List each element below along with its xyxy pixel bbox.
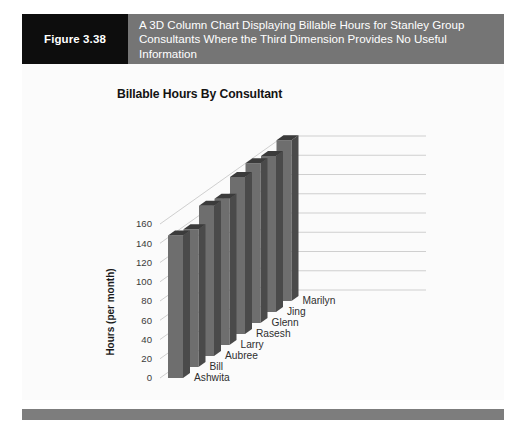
figure-caption-block: A 3D Column Chart Displaying Billable Ho… bbox=[128, 14, 504, 64]
category-label: Marilyn bbox=[303, 295, 336, 306]
y-axis-title: Hours (per month) bbox=[105, 268, 116, 355]
y-axis-tick-label: 160 bbox=[136, 218, 152, 229]
footer-rule bbox=[22, 409, 504, 420]
bar-column bbox=[168, 231, 190, 378]
y-axis-tick-label: 20 bbox=[141, 353, 152, 364]
bar-side-face bbox=[292, 135, 299, 301]
category-label: Ashwita bbox=[194, 372, 230, 383]
bar-side-face bbox=[276, 151, 283, 312]
y-axis-ticks-group: 020406080100120140160 bbox=[136, 218, 152, 383]
category-label: Rasesh bbox=[256, 328, 291, 339]
y-axis-tick-label: 0 bbox=[147, 372, 152, 383]
bar-side-face bbox=[261, 158, 268, 323]
y-axis-tick-label: 100 bbox=[136, 276, 152, 287]
bar-side-face bbox=[245, 172, 252, 334]
category-label: Glenn bbox=[272, 317, 299, 328]
y-axis-tick-label: 80 bbox=[141, 295, 152, 306]
figure-header-band: Figure 3.38 A 3D Column Chart Displaying… bbox=[22, 14, 504, 64]
figure-caption-text: A 3D Column Chart Displaying Billable Ho… bbox=[139, 18, 494, 61]
figure-number-block: Figure 3.38 bbox=[22, 14, 128, 64]
chart-area: Billable Hours By Consultant 02040608010… bbox=[22, 64, 504, 400]
figure-root: Figure 3.38 A 3D Column Chart Displaying… bbox=[0, 0, 526, 441]
category-label: Larry bbox=[241, 339, 265, 350]
y-axis-tick-label: 40 bbox=[141, 334, 152, 345]
category-label: Jing bbox=[287, 306, 306, 317]
y-axis-tick-label: 140 bbox=[136, 238, 152, 249]
bar-side-face bbox=[230, 194, 237, 345]
y-axis-tick-label: 60 bbox=[141, 315, 152, 326]
bar-side-face bbox=[183, 231, 190, 378]
category-label: Aubree bbox=[225, 350, 258, 361]
figure-number-label: Figure 3.38 bbox=[44, 33, 106, 45]
bar-side-face bbox=[214, 201, 221, 356]
three-d-column-chart: 020406080100120140160Hours (per month)Ma… bbox=[22, 64, 504, 400]
category-label: Bill bbox=[210, 361, 224, 372]
bar-front-face bbox=[168, 236, 183, 378]
bar-side-face bbox=[199, 224, 206, 367]
y-axis-tick-label: 120 bbox=[136, 257, 152, 268]
